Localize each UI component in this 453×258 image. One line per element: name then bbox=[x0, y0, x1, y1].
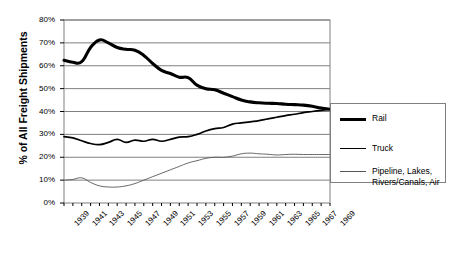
freight-share-line-chart: % of All Freight Shipments 0%10%20%30%40… bbox=[0, 0, 453, 258]
y-tick-label: 0% bbox=[25, 198, 55, 207]
y-tick-label: 30% bbox=[25, 129, 55, 138]
legend-line-swatch-pipeline-icon bbox=[340, 171, 366, 172]
y-tick-label: 60% bbox=[25, 61, 55, 70]
legend-item-label: Rail bbox=[372, 113, 387, 124]
y-tick-label: 10% bbox=[25, 175, 55, 184]
y-tick-label: 40% bbox=[25, 107, 55, 116]
legend-item-rail[interactable]: Rail bbox=[340, 113, 387, 124]
plot-frame bbox=[64, 20, 330, 203]
y-tick-label: 50% bbox=[25, 84, 55, 93]
legend-item-truck[interactable]: Truck bbox=[340, 143, 393, 154]
legend-line-swatch-truck-icon bbox=[340, 148, 366, 149]
legend-item-label: Pipeline, Lakes, Rivers/Canals, Air bbox=[372, 166, 440, 188]
y-tick-label: 70% bbox=[25, 38, 55, 47]
legend-item-label: Truck bbox=[372, 143, 393, 154]
legend-item-pipeline[interactable]: Pipeline, Lakes, Rivers/Canals, Air bbox=[340, 166, 440, 188]
y-axis-ticks bbox=[60, 20, 64, 203]
legend-line-swatch-rail-icon bbox=[340, 118, 366, 121]
y-tick-label: 20% bbox=[25, 152, 55, 161]
y-tick-label: 80% bbox=[25, 15, 55, 24]
